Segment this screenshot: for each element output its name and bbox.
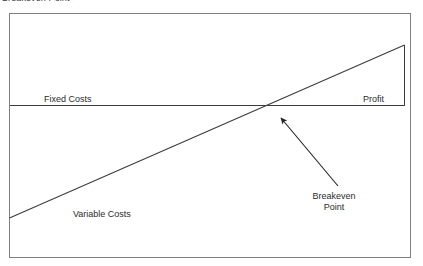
breakeven-chart-page: Breakeven Point Fixed Costs Profit Varia… <box>0 0 423 266</box>
breakeven-point-annotation: Breakeven Point <box>302 191 366 213</box>
variable-costs-label: Variable Costs <box>73 209 131 220</box>
chart-plot-area <box>0 0 423 266</box>
profit-label: Profit <box>363 94 384 105</box>
breakeven-annotation-line-1: Breakeven <box>302 191 366 202</box>
breakeven-annotation-line-2: Point <box>302 202 366 213</box>
fixed-costs-label: Fixed Costs <box>44 94 92 105</box>
breakeven-callout-arrow <box>281 118 338 186</box>
